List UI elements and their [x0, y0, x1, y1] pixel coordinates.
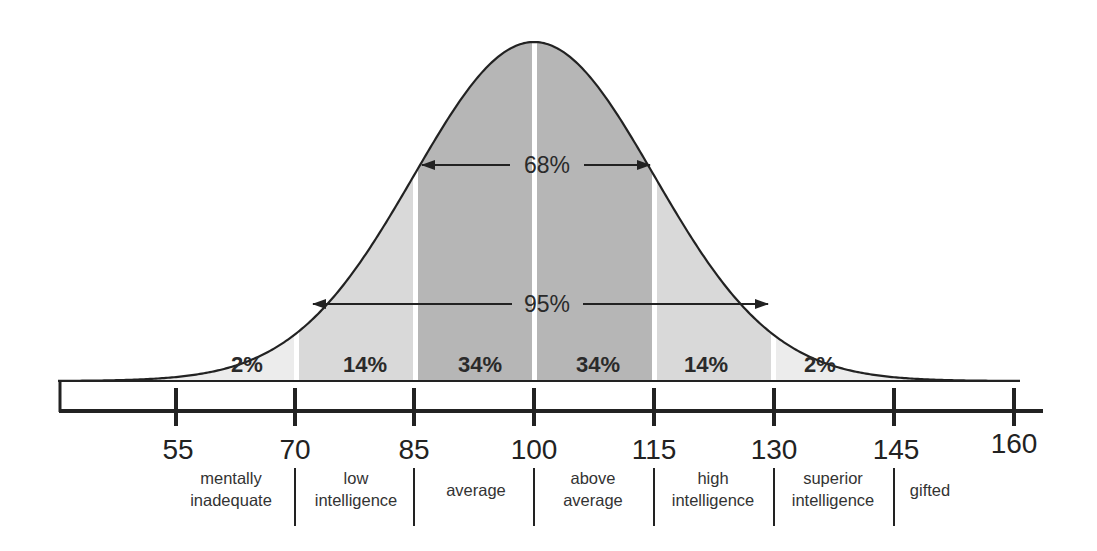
band-percent-85-100: 34% [458, 352, 502, 377]
category-superior-line2: intelligence [792, 491, 875, 509]
tick-label-100: 100 [511, 434, 558, 465]
tick-label-160: 160 [991, 428, 1038, 459]
tick-labels: 55 70 85 100 115 130 145 160 [162, 428, 1037, 465]
separator-70 [294, 30, 299, 382]
shaded-bands [40, 30, 1034, 382]
category-gifted: gifted [910, 481, 950, 499]
band-percent-70-85: 14% [343, 352, 387, 377]
category-above-line1: above [571, 469, 616, 487]
tick-label-115: 115 [632, 434, 677, 465]
band-percent-tail-left: 2% [231, 352, 263, 377]
category-mentally-line2: inadequate [190, 491, 272, 509]
tick-label-70: 70 [279, 434, 310, 465]
category-low-line1: low [344, 469, 369, 487]
separator-100 [532, 30, 537, 382]
iq-bell-curve-chart: 68% 95% 2% 14% 34% 34% 14% 2% 55 70 85 1… [0, 0, 1097, 551]
band-percent-tail-right: 2% [804, 352, 836, 377]
band-tail-left [40, 30, 295, 382]
band-tail-right [774, 30, 1034, 382]
category-superior-line1: superior [803, 469, 863, 487]
category-low-line2: intelligence [315, 491, 398, 509]
category-high-line1: high [697, 469, 728, 487]
x-axis: 55 70 85 100 115 130 145 160 [59, 381, 1043, 465]
tick-label-85: 85 [398, 434, 429, 465]
category-average: average [446, 481, 506, 499]
category-labels: mentally inadequate low intelligence ave… [190, 469, 950, 509]
separator-115 [652, 30, 657, 382]
tick-label-55: 55 [162, 434, 193, 465]
category-high-line2: intelligence [672, 491, 755, 509]
separator-130 [771, 30, 776, 382]
label-95-percent: 95% [524, 291, 570, 317]
tick-label-145: 145 [873, 434, 920, 465]
tick-marks [176, 388, 1014, 426]
separator-85 [413, 30, 418, 382]
band-percent-100-115: 34% [576, 352, 620, 377]
category-above-line2: average [563, 491, 623, 509]
band-percent-115-130: 14% [684, 352, 728, 377]
category-mentally-line1: mentally [200, 469, 262, 487]
tick-label-130: 130 [751, 434, 798, 465]
label-68-percent: 68% [524, 152, 570, 178]
